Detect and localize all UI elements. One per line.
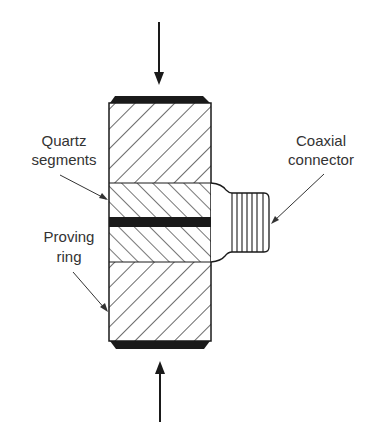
quartz-segment-lower xyxy=(109,227,211,262)
label-coaxial-line1: Coaxial xyxy=(296,132,346,149)
leader-coaxial xyxy=(271,174,324,224)
label-proving-line2: ring xyxy=(56,248,81,265)
leader-proving xyxy=(73,272,108,312)
label-quartz-line1: Quartz xyxy=(41,132,86,149)
proving-ring-lower xyxy=(109,262,211,341)
bottom-cap xyxy=(110,341,210,349)
label-coaxial-line2: connector xyxy=(288,151,354,168)
top-cap xyxy=(110,96,210,103)
force-arrow-bottom xyxy=(155,361,165,422)
electrode-band xyxy=(109,217,211,227)
coaxial-connector xyxy=(211,183,269,262)
proving-ring-upper xyxy=(109,103,211,183)
leader-quartz xyxy=(60,175,108,200)
label-proving-line1: Proving xyxy=(44,228,95,245)
load-cell-diagram: Quartz segments Proving ring Coaxial con… xyxy=(0,0,379,448)
label-quartz-line2: segments xyxy=(31,151,96,168)
quartz-segment-upper xyxy=(109,183,211,217)
force-arrow-top xyxy=(154,22,164,85)
